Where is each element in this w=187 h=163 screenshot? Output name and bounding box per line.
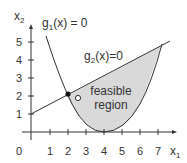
- x-axis-title: x1: [170, 144, 181, 160]
- x-tick-label: 2: [65, 145, 71, 157]
- y-tick-label: 2: [16, 90, 22, 102]
- x-axis-arrow-icon: [172, 130, 177, 134]
- y-tick-label: 1: [16, 108, 22, 120]
- x-tick-label: 7: [155, 145, 161, 157]
- optimum-point-filled: [65, 91, 70, 96]
- y-axis-title: x2: [14, 9, 25, 25]
- g2-label: g2(x)=0: [84, 49, 123, 65]
- region-label-line1: feasible: [90, 84, 132, 98]
- diagram-canvas: 1 2 3 4 5 6 7 0 1 2 3 4 5 x1 x2 g1(x) = …: [0, 0, 187, 163]
- g1-label: g1(x) = 0: [42, 16, 88, 32]
- x-tick-label: 1: [47, 145, 53, 157]
- y-tick-label: 4: [16, 54, 22, 66]
- y-axis-arrow-icon: [29, 24, 33, 29]
- y-tick-label: 3: [16, 72, 22, 84]
- region-label-line2: region: [94, 98, 127, 112]
- x-tick-label: 3: [83, 145, 89, 157]
- x-tick-label: 6: [137, 145, 143, 157]
- y-tick-label: 5: [16, 36, 22, 48]
- origin-label: 0: [16, 145, 22, 157]
- x-tick-label: 4: [101, 145, 107, 157]
- interior-point-open: [75, 95, 80, 100]
- x-tick-label: 5: [119, 145, 125, 157]
